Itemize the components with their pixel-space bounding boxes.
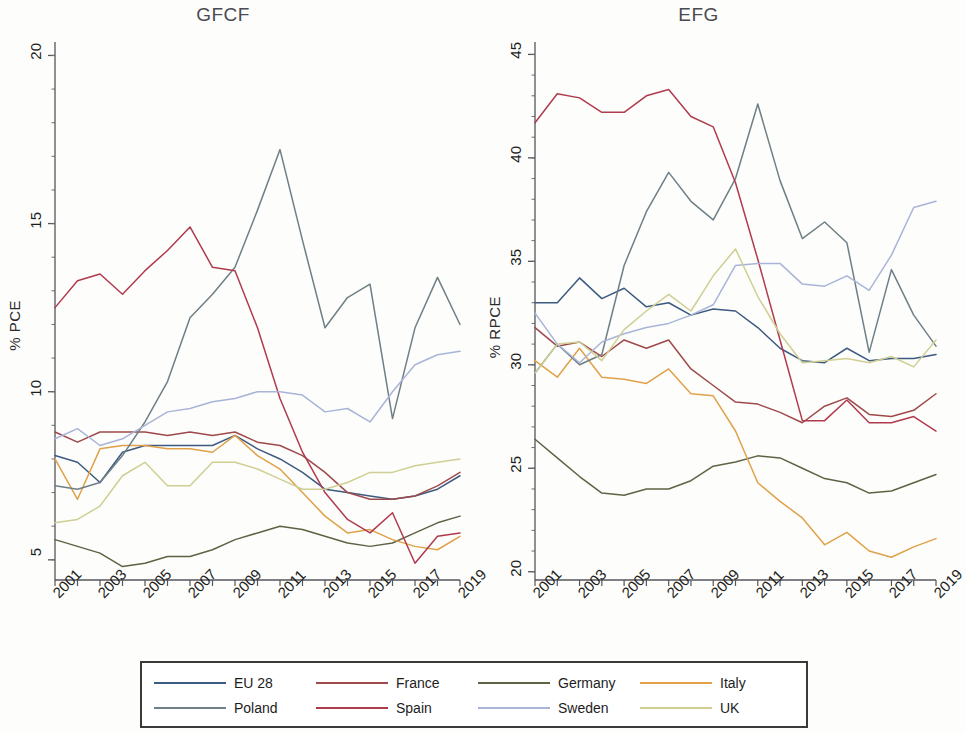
series-line-italy (535, 348, 936, 557)
legend-label: France (396, 675, 440, 691)
panel-title-efg: EFG (462, 4, 935, 26)
y-axis-title-right: % RPCE (486, 296, 503, 358)
legend-item-france[interactable]: France (312, 675, 474, 691)
line-series-gfcf (55, 42, 460, 580)
legend: EU 28FranceGermanyItalyPolandSpainSweden… (140, 661, 808, 728)
legend-grid: EU 28FranceGermanyItalyPolandSpainSweden… (150, 670, 798, 720)
y-tick-label: 45 (507, 42, 524, 59)
series-line-germany (535, 439, 936, 495)
legend-swatch-spain (316, 707, 388, 709)
legend-item-uk[interactable]: UK (636, 700, 798, 716)
y-tick-label: 20 (507, 560, 524, 577)
legend-label: Sweden (558, 700, 609, 716)
panel-title-gfcf: GFCF (0, 4, 460, 26)
y-tick-label: 20 (27, 43, 44, 60)
y-tick-label: 25 (507, 456, 524, 473)
y-tick-label: 10 (27, 380, 44, 397)
legend-swatch-germany (478, 682, 550, 684)
legend-label: UK (720, 700, 739, 716)
y-tick-label: 5 (27, 548, 44, 556)
legend-label: Germany (558, 675, 616, 691)
series-line-spain (535, 90, 936, 431)
legend-item-poland[interactable]: Poland (150, 700, 312, 716)
y-axis-title-left: % PCE (6, 300, 23, 351)
legend-item-spain[interactable]: Spain (312, 700, 474, 716)
series-line-poland (55, 150, 460, 490)
legend-item-germany[interactable]: Germany (474, 675, 636, 691)
plot-area-gfcf (55, 42, 460, 580)
legend-label: EU 28 (234, 675, 273, 691)
series-line-spain (55, 227, 460, 563)
legend-swatch-italy (640, 682, 712, 684)
legend-label: Spain (396, 700, 432, 716)
series-line-france (55, 432, 460, 499)
y-tick-label: 35 (507, 249, 524, 266)
series-line-france (535, 328, 936, 423)
y-tick-label: 15 (27, 212, 44, 229)
legend-item-italy[interactable]: Italy (636, 675, 798, 691)
y-tick-label: 30 (507, 353, 524, 370)
series-line-eu-28 (535, 278, 936, 363)
series-line-poland (535, 104, 936, 373)
legend-swatch-poland (154, 707, 226, 709)
series-line-sweden (535, 201, 936, 362)
legend-label: Italy (720, 675, 746, 691)
legend-item-eu-28[interactable]: EU 28 (150, 675, 312, 691)
series-line-uk (55, 459, 460, 523)
legend-swatch-sweden (478, 707, 550, 709)
legend-label: Poland (234, 700, 278, 716)
line-series-efg (535, 42, 936, 580)
y-tick-label: 40 (507, 146, 524, 163)
legend-item-sweden[interactable]: Sweden (474, 700, 636, 716)
plot-area-efg (535, 42, 936, 580)
series-line-eu-28 (55, 435, 460, 499)
legend-swatch-eu-28 (154, 682, 226, 684)
legend-swatch-france (316, 682, 388, 684)
legend-swatch-uk (640, 707, 712, 709)
